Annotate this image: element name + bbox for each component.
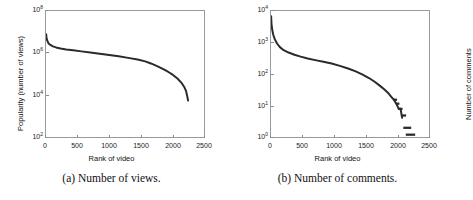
comments-x-axis-title: Rank of video (226, 154, 449, 163)
y-tick-label: 106 (32, 48, 43, 56)
views-curve-svg (46, 11, 204, 137)
y-tick-label: 102 (32, 133, 43, 141)
views-y-axis-title: Popularity (number of views) (16, 36, 25, 131)
x-tick-label: 2500 (421, 140, 437, 152)
panel-comments: 0 500 1000 1500 2000 2500 104 103 102 10… (224, 0, 447, 200)
x-tick-label: 1000 (326, 140, 342, 152)
comments-tail-steps (393, 99, 415, 136)
y-tick-label: 103 (257, 38, 268, 46)
x-tick-label: 1000 (101, 140, 117, 152)
y-tick-label: 100 (257, 133, 268, 141)
panel-views: 0 500 1000 1500 2000 2500 108 106 104 10… (0, 0, 223, 200)
y-tick-label: 104 (257, 6, 268, 14)
comments-caption: (b) Number of comments. (226, 172, 449, 184)
y-tick-label: 101 (257, 102, 268, 110)
comments-curve-svg (271, 11, 429, 137)
x-tick-label: 500 (296, 140, 308, 152)
plot-area-comments (270, 10, 430, 138)
x-tick-label: 0 (43, 140, 47, 152)
comments-curve-path (271, 16, 402, 118)
comments-y-axis-title: Number of comments (464, 48, 473, 120)
y-tick-label: 104 (32, 91, 43, 99)
x-tick-label: 2000 (165, 140, 181, 152)
comments-y-tick-labels: 104 103 102 101 100 (224, 0, 268, 200)
y-tick-label: 102 (257, 70, 268, 78)
x-tick-label: 1500 (358, 140, 374, 152)
x-tick-label: 2000 (390, 140, 406, 152)
plot-area-views (45, 10, 205, 138)
x-tick-label: 0 (268, 140, 272, 152)
x-tick-label: 1500 (133, 140, 149, 152)
x-tick-label: 500 (71, 140, 83, 152)
views-curve-path (46, 34, 188, 100)
views-caption: (a) Number of views. (0, 172, 223, 184)
views-x-axis-title: Rank of video (0, 154, 223, 163)
x-tick-label: 2500 (196, 140, 212, 152)
y-tick-label: 108 (32, 6, 43, 14)
